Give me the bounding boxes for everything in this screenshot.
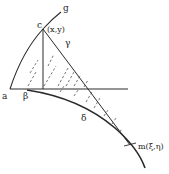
diagram-canvas: g c (x,y) γ a β δ m(ξ,η) [0, 0, 169, 174]
label-a: a [2, 91, 8, 101]
label-c: c [37, 20, 42, 30]
label-gamma: γ [65, 38, 70, 48]
label-m: m(ξ,η) [138, 142, 164, 151]
label-beta: β [23, 91, 28, 101]
label-xy: (x,y) [47, 25, 65, 34]
characteristic-gamma [43, 29, 130, 145]
label-g: g [63, 3, 69, 13]
label-delta: δ [81, 113, 86, 123]
curve-g [10, 12, 61, 89]
